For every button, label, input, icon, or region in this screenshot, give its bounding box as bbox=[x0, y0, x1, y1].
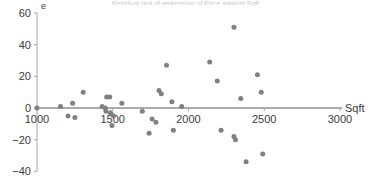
data-point bbox=[153, 120, 158, 125]
data-point bbox=[259, 90, 264, 95]
x-tick-label-2500: 2500 bbox=[252, 113, 276, 125]
data-points-group bbox=[35, 25, 266, 165]
axis-titles-group: Sqfte bbox=[41, 1, 365, 114]
data-point bbox=[255, 72, 260, 77]
data-point bbox=[35, 106, 40, 111]
data-point bbox=[207, 60, 212, 65]
data-point bbox=[109, 123, 114, 128]
data-point bbox=[169, 99, 174, 104]
y-tick-label--20: −20 bbox=[12, 134, 31, 146]
data-point bbox=[140, 109, 145, 114]
data-point bbox=[260, 151, 265, 156]
data-point bbox=[231, 25, 236, 30]
data-point bbox=[215, 79, 220, 84]
x-tick-label-2000: 2000 bbox=[176, 113, 200, 125]
data-point bbox=[58, 104, 63, 109]
y-tick-label--40: −40 bbox=[12, 165, 31, 177]
data-point bbox=[159, 91, 164, 96]
data-point bbox=[164, 63, 169, 68]
y-tick-label-40: 40 bbox=[19, 39, 31, 51]
y-tick-label-20: 20 bbox=[19, 70, 31, 82]
x-axis-title: Sqft bbox=[345, 102, 365, 114]
tick-labels-group: −40−20020406010001500200025003000 bbox=[12, 7, 352, 177]
tick-marks-group bbox=[34, 13, 340, 171]
data-point bbox=[244, 159, 249, 164]
data-point bbox=[171, 128, 176, 133]
data-point bbox=[238, 96, 243, 101]
data-point bbox=[66, 113, 71, 118]
data-point bbox=[70, 101, 75, 106]
data-point bbox=[233, 137, 238, 142]
data-point bbox=[179, 104, 184, 109]
x-tick-label-1000: 1000 bbox=[25, 113, 49, 125]
residual-scatter-plot: Residual plot of regression of Price aga… bbox=[0, 0, 371, 185]
data-point bbox=[103, 109, 108, 114]
chart-canvas: −40−20020406010001500200025003000 Sqfte bbox=[0, 0, 371, 185]
data-point bbox=[81, 90, 86, 95]
data-point bbox=[107, 94, 112, 99]
data-point bbox=[219, 128, 224, 133]
data-point bbox=[147, 131, 152, 136]
x-tick-label-3000: 3000 bbox=[328, 113, 352, 125]
y-axis-title: e bbox=[41, 1, 46, 11]
y-tick-label-60: 60 bbox=[19, 7, 31, 19]
data-point bbox=[119, 101, 124, 106]
data-point bbox=[111, 113, 116, 118]
data-point bbox=[72, 115, 77, 120]
